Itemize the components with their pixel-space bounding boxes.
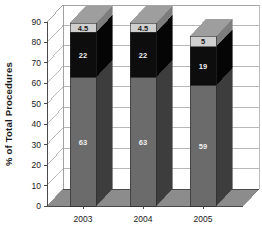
- svg-text:2005: 2005: [194, 214, 213, 224]
- chart-canvas: 010203040506070809063224.5200363224.5200…: [0, 0, 262, 236]
- svg-text:70: 70: [32, 58, 42, 68]
- svg-text:0: 0: [36, 201, 41, 211]
- svg-text:4.5: 4.5: [138, 24, 148, 33]
- svg-text:63: 63: [79, 138, 87, 147]
- svg-text:59: 59: [199, 142, 207, 151]
- y-axis-title: % of Total Procedures: [3, 62, 14, 166]
- svg-text:22: 22: [139, 51, 147, 60]
- svg-text:90: 90: [32, 17, 42, 27]
- svg-text:2004: 2004: [134, 214, 153, 224]
- svg-text:20: 20: [32, 160, 42, 170]
- svg-text:19: 19: [199, 62, 207, 71]
- svg-text:2003: 2003: [74, 214, 93, 224]
- svg-text:4.5: 4.5: [78, 24, 88, 33]
- bar-2003-bottom-side: [96, 60, 112, 206]
- svg-text:30: 30: [32, 140, 42, 150]
- svg-text:60: 60: [32, 78, 42, 88]
- svg-text:5: 5: [201, 37, 205, 46]
- svg-text:50: 50: [32, 99, 42, 109]
- svg-text:22: 22: [79, 51, 87, 60]
- stacked-column-chart: 010203040506070809063224.5200363224.5200…: [0, 0, 262, 236]
- plot-left-wall: [47, 5, 63, 206]
- svg-text:63: 63: [139, 138, 147, 147]
- svg-text:10: 10: [32, 181, 42, 191]
- svg-text:80: 80: [32, 37, 42, 47]
- bar-2005-bottom-side: [216, 68, 232, 206]
- svg-text:40: 40: [32, 119, 42, 129]
- bar-2004-bottom-side: [156, 60, 172, 206]
